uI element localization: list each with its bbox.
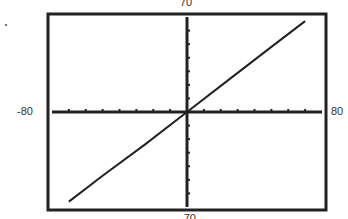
graph-plot <box>0 0 348 219</box>
